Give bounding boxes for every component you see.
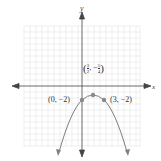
x-axis-left-arrow-icon bbox=[12, 84, 19, 89]
y-axis-up-arrow-icon bbox=[80, 12, 85, 19]
point-3-neg2 bbox=[102, 98, 106, 102]
y-axis-down-arrow-icon bbox=[80, 150, 85, 157]
point-0-neg2 bbox=[80, 98, 84, 102]
point-label-0-neg2: (0, −2) bbox=[48, 96, 70, 104]
x-axis-right-arrow-icon bbox=[144, 84, 151, 89]
y-axis-label: y bbox=[79, 4, 84, 13]
curve-right-arrow-icon bbox=[125, 149, 130, 156]
x-axis-label: x bbox=[151, 83, 156, 91]
vertex-point bbox=[91, 93, 95, 97]
points bbox=[80, 93, 106, 102]
curve-left-arrow-icon bbox=[56, 149, 61, 156]
point-label-3-neg2: (3, −2) bbox=[110, 96, 132, 104]
coordinate-plane: y x bbox=[0, 0, 161, 161]
vertex-label: (32, −54) bbox=[83, 62, 104, 74]
